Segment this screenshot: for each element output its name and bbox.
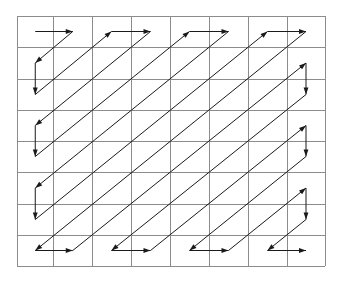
zigzag-arrow-segment <box>35 32 111 95</box>
zigzag-arrow-segment <box>35 32 267 220</box>
zigzag-arrow-segment <box>35 32 189 157</box>
zigzag-arrow-segment <box>151 126 307 251</box>
zigzag-arrow-segment <box>73 63 306 251</box>
zigzag-arrow-segment <box>229 188 307 251</box>
zigzag-diagram <box>0 0 339 284</box>
